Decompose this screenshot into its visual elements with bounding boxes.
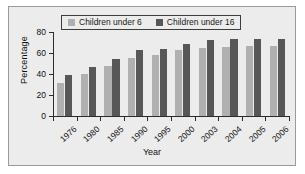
y-axis-title: Percentage [19,24,29,96]
x-axis-title: Year [9,147,295,157]
bar-2005-series-2 [254,39,261,116]
legend-label-children-under-16: Children under 16 [167,18,235,27]
y-axis-tick: 60 [49,53,53,54]
bar-2004-series-2 [230,39,237,116]
x-axis-tick [265,117,266,121]
legend-swatch-children-under-16 [156,19,163,26]
y-axis-tick-label: 40 [37,69,46,79]
chart-figure: Children under 6 Children under 16 Perce… [8,6,296,166]
bar-2006-series-1 [270,46,277,116]
bar-1980-series-1 [81,74,88,116]
legend-swatch-children-under-6 [68,19,75,26]
chart-legend: Children under 6 Children under 16 [61,15,241,30]
bar-1985-series-1 [104,66,111,116]
x-axis-tick [218,117,219,121]
bar-1995-series-1 [152,55,159,116]
x-axis-tick-label: 1995 [152,124,173,144]
bar-2003-series-2 [207,40,214,116]
bar-1990-series-1 [128,58,135,116]
y-axis-tick: 40 [49,74,53,75]
y-axis-tick-label: 20 [37,90,46,100]
y-axis-tick-label: 0 [41,111,46,121]
x-axis-tick-label: 2004 [223,124,244,144]
x-axis-tick [171,117,172,121]
x-axis-tick [77,117,78,121]
x-axis-tick-label: 1980 [81,124,102,144]
x-axis-tick [195,117,196,121]
bar-1985-series-2 [112,59,119,116]
x-axis-tick [53,117,54,121]
x-axis-tick-label: 2006 [270,124,291,144]
bar-2004-series-1 [222,47,229,116]
legend-entry-children-under-16: Children under 16 [156,18,235,27]
y-axis-line [53,32,54,117]
x-axis-tick-label: 2005 [246,124,267,144]
x-axis-tick [242,117,243,121]
x-axis-tick [100,117,101,121]
bar-1990-series-2 [136,50,143,116]
x-axis-tick [124,117,125,121]
y-axis-tick-label: 60 [37,48,46,58]
x-axis-tick-label: 1985 [105,124,126,144]
bar-1995-series-2 [160,49,167,116]
x-axis-tick [289,117,290,121]
x-axis-tick-label: 2000 [176,124,197,144]
bar-2000-series-1 [175,50,182,116]
bar-2003-series-1 [199,48,206,116]
bar-2006-series-2 [278,39,285,116]
bar-2000-series-2 [183,44,190,116]
bar-1976-series-2 [65,75,72,116]
bar-2005-series-1 [246,46,253,116]
y-axis-tick: 80 [49,32,53,33]
y-axis-tick: 20 [49,95,53,96]
x-axis-tick [147,117,148,121]
plot-area: 020406080 197619801985199019952000200320… [53,32,289,116]
bar-1980-series-2 [89,67,96,116]
legend-label-children-under-6: Children under 6 [79,18,142,27]
x-axis-tick-label: 2003 [199,124,220,144]
legend-entry-children-under-6: Children under 6 [68,18,142,27]
y-axis-tick-label: 80 [37,27,46,37]
x-axis-tick-label: 1976 [58,124,79,144]
x-axis-tick-label: 1990 [128,124,149,144]
bar-1976-series-1 [57,83,64,116]
